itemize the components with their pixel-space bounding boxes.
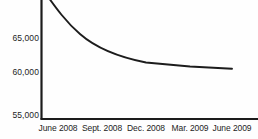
x-axis-tick-label-june-2009: June 2009 [213, 123, 252, 133]
x-axis-tick-label-sept-2008: Sept. 2008 [82, 123, 122, 133]
x-axis-tick-label-june-2008: June 2008 [39, 123, 78, 133]
data-series-line [46, 0, 232, 69]
line-chart-figure: 65,000 60,000 55,000 June 2008 Sept. 200… [0, 0, 258, 139]
y-axis-tick-label-55000: 55,000 [0, 110, 39, 120]
y-axis-tick-label-65000: 65,000 [0, 33, 39, 43]
y-axis-tick-label-60000: 60,000 [0, 67, 39, 77]
x-axis-tick-label-mar-2009: Mar. 2009 [172, 123, 209, 133]
x-axis-tick-label-dec-2008: Dec. 2008 [127, 123, 165, 133]
